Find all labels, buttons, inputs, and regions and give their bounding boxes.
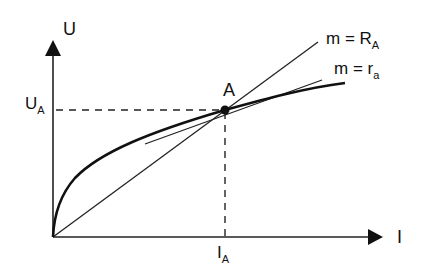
x-axis-arrow-icon (368, 229, 383, 245)
secant-slope-label: m = RA (326, 30, 379, 47)
ua-label-main: U (25, 94, 37, 113)
tangent-slope-prefix: m = r (334, 59, 373, 78)
y-axis-label: U (63, 20, 76, 38)
ia-label: IA (217, 244, 229, 261)
secant-slope-sub: A (372, 39, 379, 51)
ua-label-sub: A (37, 104, 44, 116)
secant-slope-prefix: m = R (326, 29, 372, 48)
x-axis-label: I (397, 228, 402, 246)
characteristic-curve (53, 83, 345, 237)
ua-label: UA (25, 95, 45, 112)
ia-label-sub: A (222, 253, 229, 265)
operating-point-a (221, 106, 230, 115)
secant-line (53, 42, 318, 237)
point-a-label: A (223, 81, 235, 99)
tangent-slope-sub: a (373, 69, 379, 81)
tangent-slope-label: m = ra (334, 60, 379, 77)
y-axis-arrow-icon (45, 40, 61, 56)
